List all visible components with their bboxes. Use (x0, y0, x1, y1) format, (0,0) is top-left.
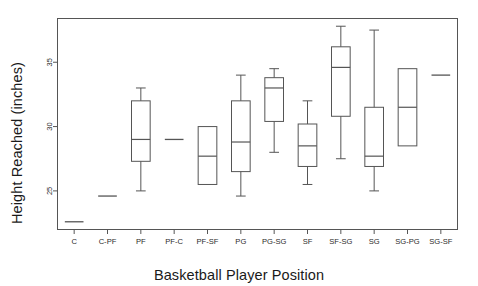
x-tick-label-pf-c: PF-C (165, 237, 183, 246)
y-tick-label: 30 (45, 122, 54, 130)
boxplot-figure: Height Reached (inches) 253035 CC-PFPFPF… (0, 0, 478, 286)
plot-canvas: 253035 CC-PFPFPF-CPF-SFPGPG-SGSFSF-SGSGS… (0, 0, 478, 286)
box-rect (332, 47, 351, 116)
x-tick-label-pf: PF (136, 237, 146, 246)
box-pg-sg (265, 69, 284, 153)
x-tick-label-sf: SF (303, 237, 313, 246)
x-axis-ticks: CC-PFPFPF-CPF-SFPGPG-SGSFSF-SGSGSG-PGSG-… (71, 230, 452, 247)
x-axis-title: Basketball Player Position (0, 267, 478, 283)
boxes-layer (65, 26, 450, 222)
box-sg (365, 30, 384, 191)
y-tick-label: 25 (45, 187, 54, 195)
box-rect (198, 127, 217, 185)
y-tick-label: 35 (45, 58, 54, 66)
x-tick-label-pf-sf: PF-SF (197, 237, 219, 246)
box-pf (132, 88, 151, 191)
x-tick-label-sg-sf: SG-SF (429, 237, 453, 246)
x-tick-label-sg: SG (369, 237, 380, 246)
box-sf (298, 101, 317, 185)
box-sg-pg (398, 69, 417, 146)
y-axis-ticks: 253035 (45, 58, 58, 195)
plot-frame-rect (58, 19, 458, 230)
x-tick-label-sg-pg: SG-PG (395, 237, 420, 246)
box-rect (365, 107, 384, 166)
x-tick-label-sf-sg: SF-SG (329, 237, 352, 246)
x-tick-label-pg: PG (235, 237, 246, 246)
x-tick-label-c: C (71, 237, 77, 246)
box-pg (232, 75, 251, 196)
box-rect (232, 101, 251, 172)
box-rect (298, 124, 317, 166)
box-sf-sg (332, 26, 351, 159)
box-rect (265, 78, 284, 122)
x-tick-label-pg-sg: PG-SG (262, 237, 287, 246)
plot-frame (58, 19, 458, 230)
box-rect (132, 101, 151, 161)
x-tick-label-c-pf: C-PF (99, 237, 117, 246)
box-pf-sf (198, 127, 217, 185)
